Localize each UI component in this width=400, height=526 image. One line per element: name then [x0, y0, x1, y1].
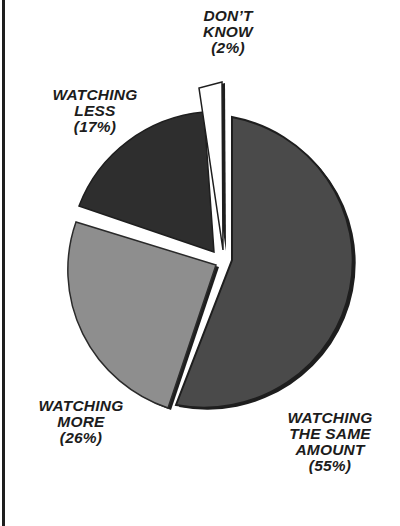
- label-dont-know-line2: KNOW: [182, 24, 274, 40]
- label-watching-more-pct: (26%): [28, 430, 134, 446]
- label-dont-know-pct: (2%): [182, 40, 274, 56]
- label-watching-more-line1: WATCHING: [28, 398, 134, 414]
- label-dont-know: DON’T KNOW (2%): [182, 8, 274, 56]
- label-watching-same-line3: AMOUNT: [272, 442, 388, 458]
- label-watching-less: WATCHING LESS (17%): [40, 87, 150, 135]
- label-watching-more: WATCHING MORE (26%): [28, 398, 134, 446]
- label-watching-more-line2: MORE: [28, 414, 134, 430]
- label-watching-less-pct: (17%): [40, 119, 150, 135]
- label-watching-same-line2: THE SAME: [272, 426, 388, 442]
- label-watching-less-line1: WATCHING: [40, 87, 150, 103]
- label-dont-know-line1: DON’T: [182, 8, 274, 24]
- label-watching-less-line2: LESS: [40, 103, 150, 119]
- label-watching-same-pct: (55%): [272, 458, 388, 474]
- label-watching-same-line1: WATCHING: [272, 410, 388, 426]
- label-watching-same: WATCHING THE SAME AMOUNT (55%): [272, 410, 388, 474]
